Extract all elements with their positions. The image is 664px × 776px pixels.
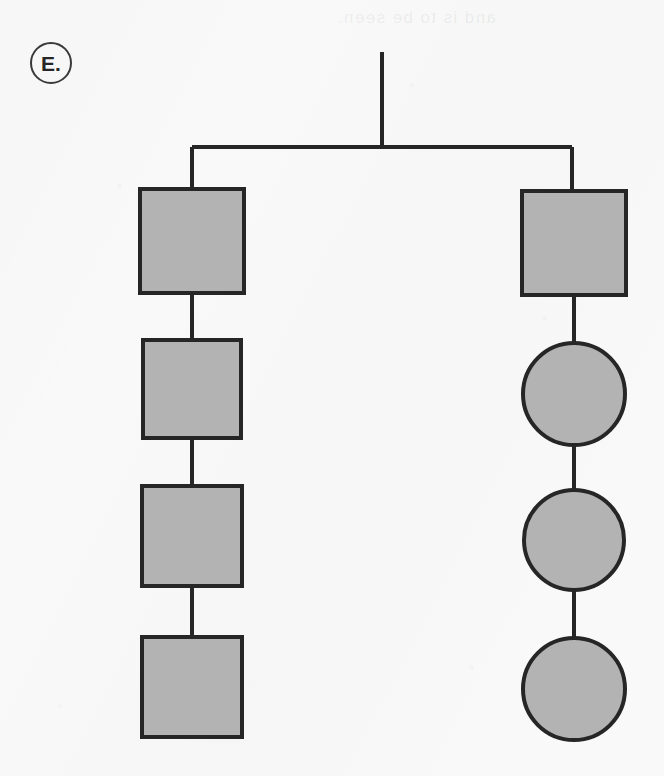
- pedigree-node-circle-r4: [523, 638, 625, 740]
- pedigree-figure: and is to be seen. E.: [0, 0, 664, 776]
- pedigree-node-square-l1: [140, 189, 244, 293]
- pedigree-tree-svg: [0, 0, 664, 776]
- pedigree-node-square-r1: [522, 191, 626, 295]
- node-layer: [140, 189, 626, 740]
- pedigree-node-circle-r3: [524, 490, 624, 590]
- connector-layer: [192, 52, 574, 638]
- pedigree-node-square-l2: [143, 340, 241, 438]
- pedigree-node-square-l3: [142, 486, 242, 586]
- pedigree-node-circle-r2: [523, 343, 625, 445]
- pedigree-node-square-l4: [142, 637, 242, 737]
